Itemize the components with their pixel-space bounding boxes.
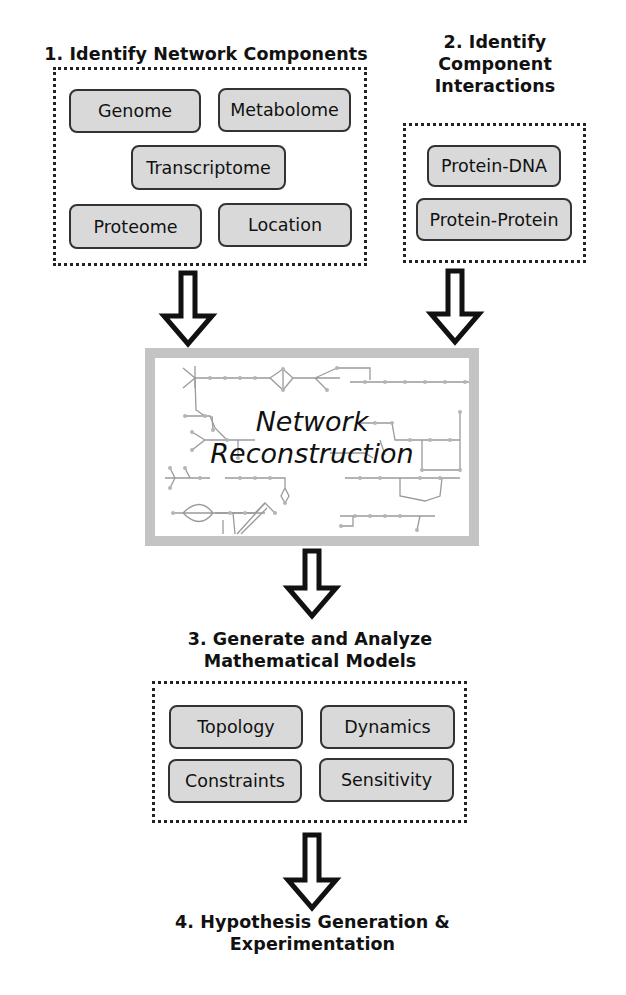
model-dynamics: Dynamics — [320, 705, 455, 749]
component-interactions-box — [403, 123, 586, 263]
step3-title-line-1: 3. Generate and Analyze — [150, 628, 470, 650]
network-label-line-1: Network — [195, 406, 429, 438]
component-transcriptome: Transcriptome — [131, 145, 286, 190]
interaction-protein-dna: Protein-DNA — [427, 145, 561, 187]
component-genome: Genome — [69, 89, 201, 133]
step4-title-line-1: 4. Hypothesis Generation & — [140, 911, 485, 933]
step4-title-line-2: Experimentation — [140, 933, 485, 955]
down-arrow-icon — [425, 268, 485, 346]
model-topology: Topology — [169, 705, 303, 749]
component-metabolome: Metabolome — [218, 88, 351, 132]
step2-title-line-1: 2. Identify — [400, 31, 590, 53]
down-arrow-icon — [282, 548, 342, 620]
network-reconstruction-panel: Network Reconstruction — [145, 348, 479, 546]
step2-title: 2. Identify Component Interactions — [400, 31, 590, 97]
step2-title-line-3: Interactions — [400, 75, 590, 97]
step1-title: 1. Identify Network Components — [20, 43, 392, 65]
model-sensitivity: Sensitivity — [319, 758, 454, 802]
step2-title-line-2: Component — [400, 53, 590, 75]
step3-title-line-2: Mathematical Models — [150, 650, 470, 672]
interaction-protein-protein: Protein-Protein — [416, 198, 572, 241]
down-arrow-icon — [158, 270, 218, 348]
step3-title: 3. Generate and Analyze Mathematical Mod… — [150, 628, 470, 672]
network-reconstruction-label: Network Reconstruction — [195, 406, 429, 470]
network-label-line-2: Reconstruction — [195, 438, 429, 470]
step4-title: 4. Hypothesis Generation & Experimentati… — [140, 911, 485, 955]
component-location: Location — [218, 203, 352, 247]
down-arrow-icon — [282, 832, 342, 912]
model-constraints: Constraints — [168, 759, 302, 803]
component-proteome: Proteome — [69, 204, 202, 249]
